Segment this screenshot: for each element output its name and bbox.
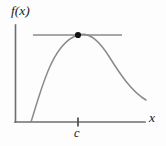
plot-area — [0, 0, 166, 146]
calculus-figure: f(x) x c — [0, 0, 166, 146]
maximum-point-dot — [75, 32, 81, 38]
critical-point-label: c — [74, 127, 80, 140]
y-axis-label: f(x) — [11, 4, 30, 18]
x-axis-label: x — [149, 111, 155, 125]
function-curve — [31, 34, 146, 122]
